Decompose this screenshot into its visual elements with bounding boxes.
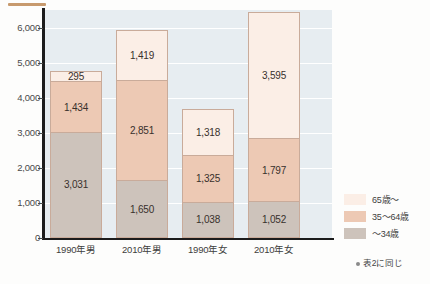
bar-segment: 1,650 <box>116 180 168 238</box>
bar-segment: 1,038 <box>182 202 234 238</box>
y-axis-tick-label: 0 <box>2 232 40 243</box>
y-axis-tick-mark <box>38 133 43 134</box>
legend-item: ～34歳 <box>344 226 428 241</box>
bar-value-label: 2,851 <box>130 125 154 136</box>
bar-segment: 3,595 <box>248 12 300 138</box>
bar-value-label: 295 <box>68 71 84 81</box>
bar-segment: 3,031 <box>50 132 102 238</box>
x-axis-tick-label: 2010年女 <box>234 242 314 256</box>
bar-value-label: 1,038 <box>196 214 220 225</box>
y-axis-tick-label: 3,000 <box>2 127 40 138</box>
y-axis-tick-label: 2,000 <box>2 162 40 173</box>
y-axis-tick-mark <box>38 63 43 64</box>
bar-value-label: 1,052 <box>262 214 286 225</box>
bar-segment: 1,052 <box>248 201 300 238</box>
legend-swatch <box>344 194 366 205</box>
y-axis-tick-mark <box>38 238 43 239</box>
bar-segment: 1,419 <box>116 30 168 80</box>
y-axis-tick-label: 4,000 <box>2 92 40 103</box>
bar-segment: 1,325 <box>182 155 234 201</box>
y-axis-tick-labels: 01,0002,0003,0004,0005,0006,000 <box>0 0 40 284</box>
bar-segment: 295 <box>50 71 102 81</box>
bar-value-label: 3,031 <box>64 179 88 190</box>
bar-value-label: 3,595 <box>262 70 286 81</box>
bar-value-label: 1,434 <box>64 102 88 113</box>
footnote-bullet-icon <box>356 262 360 266</box>
bar-value-label: 1,325 <box>196 173 220 184</box>
y-axis-tick-mark <box>38 98 43 99</box>
y-axis-tick-label: 1,000 <box>2 197 40 208</box>
y-axis-tick-mark <box>38 168 43 169</box>
bar-value-label: 1,650 <box>130 204 154 215</box>
bar-group: 2951,4343,031 <box>50 10 102 238</box>
y-axis-line <box>42 8 45 240</box>
bar-segment: 1,797 <box>248 138 300 201</box>
y-axis-tick-mark <box>38 28 43 29</box>
bar-group: 3,5951,7971,052 <box>248 10 300 238</box>
y-axis-tick-label: 6,000 <box>2 22 40 33</box>
legend-item: 65歳～ <box>344 192 428 207</box>
bar-group: 1,4192,8511,650 <box>116 10 168 238</box>
bar-segment: 1,434 <box>50 81 102 131</box>
chart-footnote: 表2に同じ <box>356 256 403 268</box>
bar-group: 1,3181,3251,038 <box>182 10 234 238</box>
bar-value-label: 1,797 <box>262 165 286 176</box>
legend-label: 65歳～ <box>372 193 399 206</box>
bar-segment: 2,851 <box>116 80 168 180</box>
bar-value-label: 1,318 <box>196 127 220 138</box>
x-axis-line <box>42 238 334 240</box>
legend-label: ～34歳 <box>372 227 399 240</box>
legend-swatch <box>344 211 366 222</box>
legend-item: 35～64歳 <box>344 209 428 224</box>
y-axis-tick-mark <box>38 203 43 204</box>
legend-swatch <box>344 228 366 239</box>
y-axis-tick-label: 5,000 <box>2 57 40 68</box>
legend-label: 35～64歳 <box>372 210 409 223</box>
bar-value-label: 1,419 <box>130 50 154 61</box>
bar-segment: 1,318 <box>182 109 234 155</box>
chart-legend: 65歳～35～64歳～34歳 <box>344 192 428 243</box>
footnote-text: 表2に同じ <box>363 258 403 268</box>
